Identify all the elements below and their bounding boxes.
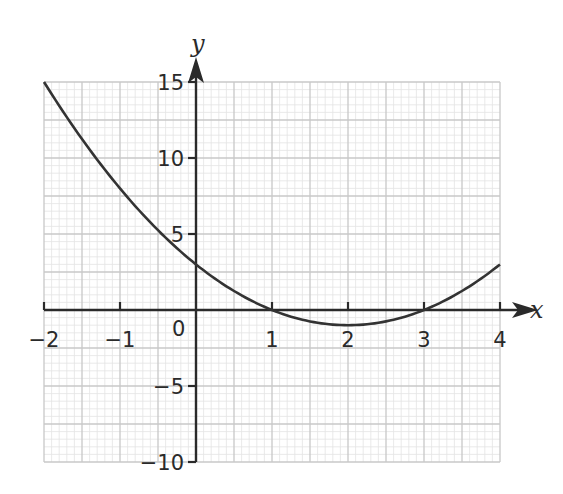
- x-tick-label: 3: [417, 328, 430, 352]
- origin-label: 0: [172, 317, 185, 341]
- x-tick-label: 2: [341, 328, 354, 352]
- y-tick-label: 15: [157, 71, 184, 95]
- function-graph: −2−11234−10−551015 x y 0: [0, 0, 563, 494]
- x-tick-label: −1: [105, 328, 136, 352]
- x-tick-label: 4: [493, 328, 506, 352]
- y-tick-label: −10: [140, 451, 184, 475]
- y-tick-label: 10: [157, 147, 184, 171]
- x-tick-label: −2: [29, 328, 60, 352]
- tick-labels: −2−11234−10−551015: [29, 71, 507, 475]
- y-tick-label: −5: [153, 375, 184, 399]
- y-axis-label: y: [190, 30, 205, 58]
- x-tick-label: 1: [265, 328, 278, 352]
- x-axis-label: x: [530, 296, 544, 324]
